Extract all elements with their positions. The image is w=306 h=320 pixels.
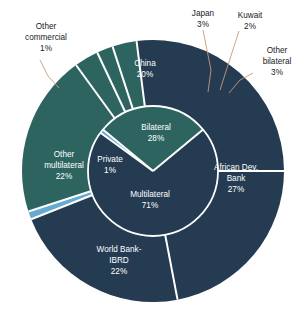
label-multilateral-pct: 71%	[142, 201, 158, 210]
label-african-dev-bank-pct: 27%	[228, 185, 244, 194]
pie-chart-svg: China 20% African Dev. Bank 27% World Ba…	[0, 0, 306, 320]
label-african-dev-bank-line2: Bank	[227, 174, 247, 183]
callout-kuwait-pct: 2%	[244, 22, 256, 31]
pie-chart-figure: China 20% African Dev. Bank 27% World Ba…	[0, 0, 306, 320]
callout-japan-name: Japan	[192, 9, 215, 18]
label-china-name: China	[134, 59, 156, 68]
callout-other-commercial-pct: 1%	[40, 44, 52, 53]
callout-other-commercial-line2: commercial	[25, 33, 67, 42]
label-other-multilateral-line2: multilateral	[44, 161, 84, 170]
callout-other-bilateral-pct: 3%	[271, 68, 283, 77]
label-world-bank-line2: IBRD	[109, 256, 129, 265]
callout-other-commercial-line1: Other	[36, 22, 57, 31]
label-private-name: Private	[97, 155, 123, 164]
label-multilateral-name: Multilateral	[130, 190, 170, 199]
label-bilateral-pct: 28%	[148, 134, 164, 143]
label-other-multilateral-pct: 22%	[56, 172, 72, 181]
label-china-pct: 20%	[137, 70, 153, 79]
label-private-pct: 1%	[104, 166, 116, 175]
callout-other-bilateral-line1: Other	[267, 46, 288, 55]
label-world-bank-pct: 22%	[111, 267, 127, 276]
label-other-multilateral-line1: Other	[54, 150, 75, 159]
label-world-bank-line1: World Bank-	[97, 245, 142, 254]
label-african-dev-bank-line1: African Dev.	[214, 163, 258, 172]
callout-other-bilateral-line2: bilateral	[263, 57, 292, 66]
callout-japan-pct: 3%	[197, 20, 209, 29]
label-bilateral-name: Bilateral	[141, 123, 171, 132]
callout-kuwait-name: Kuwait	[238, 11, 263, 20]
